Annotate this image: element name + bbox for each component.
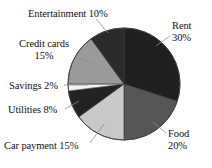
pie-label-entertainment-text: Entertainment 10%: [28, 8, 108, 19]
pie-label-credit-cards: Credit cards 15%: [8, 38, 80, 61]
pie-label-food-value: 20%: [168, 140, 189, 152]
pie-label-rent-text: Rent: [172, 20, 191, 31]
pie-label-rent: Rent 30%: [172, 20, 191, 43]
pie-label-savings: Savings 2%: [9, 80, 58, 92]
pie-label-car-payment-text: Car payment 15%: [4, 140, 78, 151]
pie-label-credit-cards-text: Credit cards: [19, 38, 69, 49]
pie-label-food-text: Food: [168, 128, 189, 139]
leader-line-entertainment: [96, 19, 108, 33]
pie-label-credit-cards-value: 15%: [8, 50, 80, 62]
pie-label-car-payment: Car payment 15%: [4, 140, 78, 152]
pie-label-utilities: Utilities 8%: [8, 104, 57, 116]
pie-label-entertainment: Entertainment 10%: [28, 8, 108, 20]
pie-label-rent-value: 30%: [172, 32, 191, 44]
pie-label-savings-text: Savings 2%: [9, 80, 58, 91]
pie-label-utilities-text: Utilities 8%: [8, 104, 57, 115]
pie-slices: [68, 28, 180, 140]
pie-label-food: Food 20%: [168, 128, 189, 151]
pie-chart: Entertainment 10% Credit cards 15% Savin…: [0, 0, 212, 168]
